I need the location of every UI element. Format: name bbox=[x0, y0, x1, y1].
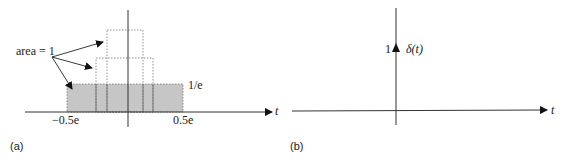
caption-b: (b) bbox=[290, 140, 303, 152]
x-right-label: 0.5e bbox=[173, 113, 193, 127]
area-annotation-arrows bbox=[52, 42, 103, 89]
caption-a: (a) bbox=[10, 140, 23, 152]
x-axis-b bbox=[292, 110, 547, 111]
panel-a: area = 1 1/e −0.5e 0.5e t (a) bbox=[10, 10, 279, 152]
height-label: 1/e bbox=[188, 78, 203, 92]
t-axis-label-a: t bbox=[275, 104, 279, 118]
diagram-canvas: area = 1 1/e −0.5e 0.5e t (a) 1 δ(t) t (… bbox=[0, 0, 570, 162]
x-left-label: −0.5e bbox=[52, 113, 79, 127]
area-label: area = 1 bbox=[16, 44, 55, 58]
impulse-arrow-icon bbox=[392, 43, 400, 52]
wide-pulse-rect bbox=[67, 84, 183, 112]
t-axis-label-b: t bbox=[551, 103, 555, 117]
delta-label: δ(t) bbox=[406, 42, 423, 56]
panel-b: 1 δ(t) t (b) bbox=[290, 8, 555, 152]
impulse-weight-label: 1 bbox=[385, 42, 391, 56]
